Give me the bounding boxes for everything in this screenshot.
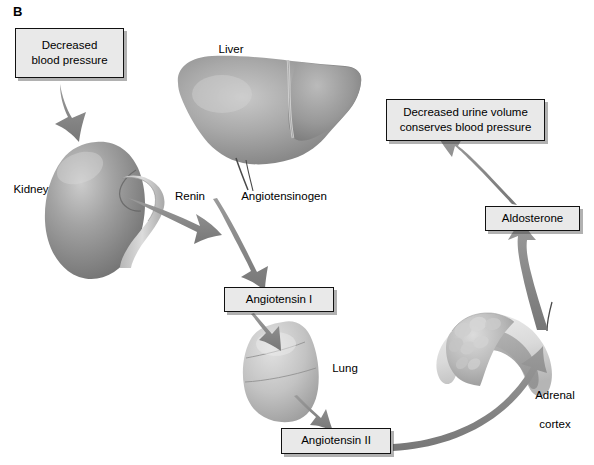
box-angiotensin-1[interactable]: Angiotensin I: [224, 287, 334, 312]
label-adrenal-cortex: Adrenal cortex: [526, 374, 584, 432]
label-renin: Renin: [168, 189, 212, 203]
box-text-line-1: Decreased: [42, 39, 98, 51]
box-text-line-1: Decreased urine volume: [403, 106, 528, 118]
arrow-aldosterone-to-urine: [437, 135, 517, 205]
liver-illustration: [178, 56, 362, 191]
box-text-line-2: blood pressure: [31, 54, 107, 66]
label-angiotensinogen: Angiotensinogen: [238, 189, 330, 203]
label-liver: Liver: [206, 42, 256, 56]
label-adrenal-cortex-line-2: cortex: [539, 418, 570, 430]
label-kidney: Kidney: [6, 182, 56, 196]
kidney-illustration: [45, 142, 165, 279]
box-decreased-urine-volume-text: Decreased urine volume conserves blood p…: [400, 105, 532, 135]
arrow-adrenal-to-aldosterone: [508, 220, 548, 330]
panel-label: B: [13, 4, 22, 19]
arrow-bp-to-kidney: [55, 84, 86, 142]
box-decreased-urine-volume[interactable]: Decreased urine volume conserves blood p…: [386, 99, 545, 141]
box-angiotensin-2-label: Angiotensin II: [301, 433, 371, 448]
box-angiotensin-2[interactable]: Angiotensin II: [281, 428, 391, 454]
box-aldosterone-label: Aldosterone: [502, 211, 563, 226]
arrow-angiotensinogen: [213, 198, 268, 291]
box-text-line-2: conserves blood pressure: [400, 121, 532, 133]
box-decreased-blood-pressure-text: Decreased blood pressure: [31, 38, 107, 68]
box-aldosterone[interactable]: Aldosterone: [485, 206, 580, 231]
box-decreased-blood-pressure[interactable]: Decreased blood pressure: [15, 28, 124, 78]
figure-panel: B Decreased blood pressure Angiotensin I…: [0, 0, 594, 465]
box-angiotensin-1-label: Angiotensin I: [246, 292, 313, 307]
label-lung: Lung: [326, 361, 364, 375]
label-adrenal-cortex-line-1: Adrenal: [535, 389, 575, 401]
